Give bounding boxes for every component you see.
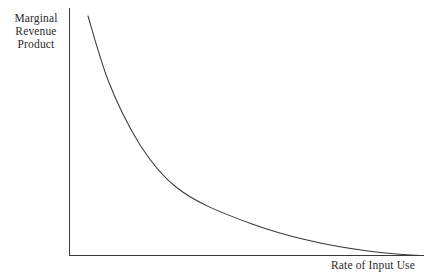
marginal-revenue-product-curve: [88, 16, 420, 256]
y-axis-label: Marginal Revenue Product: [8, 12, 64, 52]
mrp-chart-canvas: [0, 0, 435, 280]
y-axis-label-line-1: Marginal: [8, 12, 64, 25]
chart-figure: Marginal Revenue Product Rate of Input U…: [0, 0, 435, 280]
x-axis-label: Rate of Input Use: [331, 259, 415, 272]
y-axis-label-line-2: Revenue: [8, 25, 64, 38]
y-axis-label-line-3: Product: [8, 38, 64, 51]
